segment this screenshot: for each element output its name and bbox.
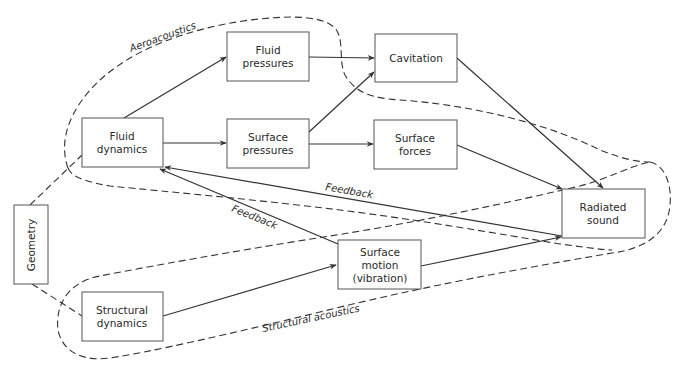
node-surface-motion: Surface motion (vibration): [338, 240, 421, 289]
node-label: Radiated: [580, 201, 627, 213]
node-surface-forces: Surface forces: [374, 120, 457, 169]
aeroacoustics-label: Aeroacoustics: [127, 20, 197, 55]
node-label: Fluid: [255, 44, 280, 56]
node-radiated-sound: Radiated sound: [562, 189, 645, 238]
aeroacoustics-region-boundary-lower: [68, 168, 612, 250]
arrow-feedback-surface-motion-to-fluid-dynamics: [160, 169, 338, 244]
node-fluid-pressures: Fluid pressures: [227, 32, 309, 81]
node-fluid-dynamics: Fluid dynamics: [82, 118, 163, 167]
arrow-surface-motion-to-radiated-sound: [421, 237, 561, 266]
diagram-canvas: Aeroacoustics Structural acoustics Feedb…: [0, 0, 690, 378]
node-label: Structural: [96, 304, 148, 316]
node-label: Geometry: [25, 219, 37, 271]
node-label: pressures: [243, 57, 294, 69]
node-label: pressures: [243, 144, 294, 156]
arrow-fluid-pressures-to-cavitation: [309, 57, 374, 58]
arrow-cavitation-to-radiated-sound: [457, 58, 603, 188]
node-label: (vibration): [353, 272, 408, 284]
arrow-surface-forces-to-radiated-sound: [457, 145, 562, 189]
node-label: sound: [587, 214, 619, 226]
node-cavitation: Cavitation: [375, 34, 457, 82]
node-label: dynamics: [97, 317, 147, 329]
geometry-to-fluid-dynamics-connector: [30, 155, 82, 205]
node-surface-pressures: Surface pressures: [227, 119, 309, 168]
arrow-surface-pressures-to-cavitation: [309, 72, 374, 132]
node-label: Surface: [248, 131, 288, 143]
structural-acoustics-label: Structural acoustics: [261, 303, 360, 334]
node-structural-dynamics: Structural dynamics: [82, 292, 163, 341]
node-label: motion: [362, 259, 399, 271]
arrow-fluid-dynamics-to-fluid-pressures: [124, 57, 226, 118]
node-label: Fluid: [109, 130, 134, 142]
node-geometry: Geometry: [14, 205, 48, 284]
arrow-feedback-radiated-sound-to-fluid-dynamics: [165, 167, 562, 236]
node-label: Cavitation: [389, 52, 443, 64]
feedback-label-upper: Feedback: [325, 181, 376, 200]
node-label: Surface: [360, 246, 400, 258]
geometry-to-structural-dynamics-connector: [32, 284, 82, 316]
arrow-structural-dynamics-to-surface-motion: [163, 265, 336, 316]
node-label: forces: [399, 145, 431, 157]
node-label: dynamics: [97, 143, 147, 155]
node-label: Surface: [395, 132, 435, 144]
